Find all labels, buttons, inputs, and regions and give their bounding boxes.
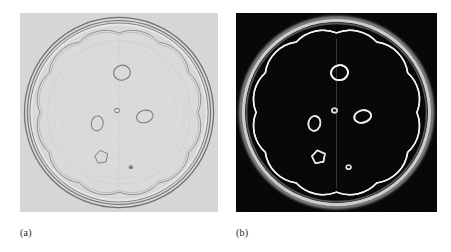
figure-panel-a bbox=[20, 13, 218, 212]
panel-label-b: (b) bbox=[236, 227, 248, 238]
figure-panel-b bbox=[236, 13, 437, 212]
panel-label-a: (a) bbox=[20, 227, 32, 238]
phantom-image-b bbox=[236, 13, 437, 212]
figure-container: (a) bbox=[0, 0, 451, 252]
phantom-image-a bbox=[20, 13, 218, 212]
